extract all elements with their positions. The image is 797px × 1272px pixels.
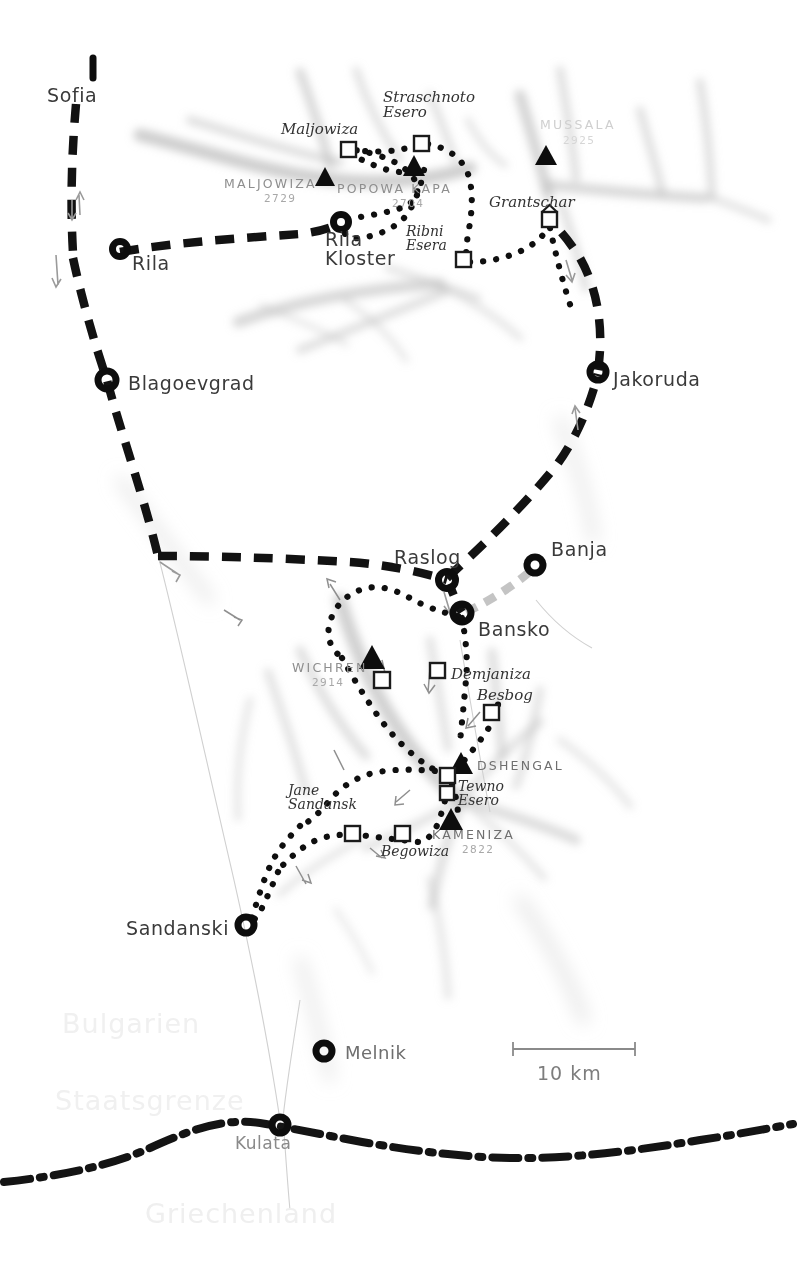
map-canvas: Bulgarien Staatsgrenze Griechenland Sofi…	[0, 0, 797, 1272]
hut-straschnoto	[414, 136, 429, 151]
hut-ribni-esera	[456, 252, 471, 267]
scale-bar	[513, 1042, 635, 1056]
peak-elevation-wichren: 2914	[312, 676, 344, 688]
hut-label-jane-sandanski[interactable]: Jane Sandansk	[288, 783, 357, 811]
country-label-bulgarien: Bulgarien	[62, 1008, 200, 1039]
road-blagoevgrad-south	[73, 258, 158, 556]
town-label-raslog[interactable]: Raslog	[394, 546, 461, 568]
hut-maljowiza	[341, 142, 356, 157]
lake-label-tewno-line2: Esero	[458, 793, 504, 807]
town-label-sandanski[interactable]: Sandanski	[126, 917, 229, 939]
hut-jane-sandanski	[345, 826, 360, 841]
peak-label-mussala: MUSSALA	[540, 117, 616, 132]
hut-begowiza	[395, 826, 410, 841]
hut-tewno-esero	[440, 786, 454, 800]
town-label-rila[interactable]: Rila	[132, 252, 170, 274]
peak-elevation-maljowiza: 2729	[264, 192, 296, 204]
town-label-bansko[interactable]: Bansko	[478, 618, 550, 640]
hut-label-ribni-line1: Ribni	[406, 224, 447, 238]
town-marker-blagoevgrad	[98, 371, 116, 389]
town-label-banja[interactable]: Banja	[551, 538, 608, 560]
country-label-staatsgrenze: Staatsgrenze	[55, 1085, 245, 1116]
town-label-jakoruda[interactable]: Jakoruda	[613, 368, 701, 390]
peak-elevation-mussala: 2925	[563, 134, 595, 146]
peak-label-kameniza: KAMENIZA	[432, 827, 515, 842]
hut-label-jane-line2: Sandansk	[288, 797, 357, 811]
border-line	[4, 1122, 793, 1182]
peak-elevation-popowa-kapa: 2704	[392, 197, 424, 209]
town-label-sofia[interactable]: Sofia	[47, 84, 97, 106]
hut-label-jane-line1: Jane	[288, 783, 357, 797]
town-label-melnik[interactable]: Melnik	[345, 1042, 406, 1063]
hut-wichren	[374, 672, 390, 688]
hut-label-grantschar[interactable]: Grantschar	[489, 193, 575, 211]
town-label-rila-kloster[interactable]: Rila Kloster	[325, 230, 395, 268]
trail-ribni-grantschar	[470, 222, 550, 262]
hut-label-besbog[interactable]: Besbog	[477, 686, 533, 704]
town-marker-sandanski	[238, 917, 254, 933]
peak-label-dshengal: DSHENGAL	[477, 758, 564, 773]
road-jakoruda-grantschar	[549, 220, 600, 370]
lake-label-tewno-esero[interactable]: Tewno Esero	[458, 779, 504, 807]
hut-label-ribni-esera[interactable]: Ribni Esera	[406, 224, 447, 252]
town-label-rila-kloster-line2: Kloster	[325, 249, 395, 268]
peak-label-wichren: WICHREN	[292, 660, 368, 675]
hut-label-maljowiza[interactable]: Maljowiza	[281, 120, 358, 138]
state-border	[4, 1122, 793, 1182]
hut-dshengal	[440, 768, 455, 783]
scale-bar-label: 10 km	[537, 1062, 602, 1084]
peak-elevation-kameniza: 2822	[462, 843, 494, 855]
town-label-kulata[interactable]: Kulata	[235, 1133, 291, 1153]
peak-label-popowa-kapa: POPOWA KAPA	[337, 181, 452, 196]
hut-grantschar	[542, 212, 557, 227]
peak-label-maljowiza: MALJOWIZA	[224, 176, 317, 191]
town-label-blagoevgrad[interactable]: Blagoevgrad	[128, 372, 255, 394]
hut-demjaniza	[430, 663, 445, 678]
lake-label-tewno-line1: Tewno	[458, 779, 504, 793]
hut-label-demjaniza[interactable]: Demjaniza	[451, 665, 531, 683]
town-marker-bansko	[453, 604, 471, 622]
country-label-griechenland: Griechenland	[145, 1198, 337, 1229]
hut-label-straschnoto-line2: Esero	[383, 105, 475, 120]
road-bansko-banja	[466, 568, 534, 612]
peak-triangle-popowa	[403, 155, 425, 176]
hut-label-ribni-line2: Esera	[406, 238, 447, 252]
hut-label-straschnoto-esero[interactable]: Straschnoto Esero	[383, 90, 475, 120]
hut-label-begowiza[interactable]: Begowiza	[381, 843, 449, 859]
road-rila-kloster	[120, 223, 341, 252]
town-marker-jakoruda	[590, 364, 606, 380]
hut-besbog	[484, 705, 499, 720]
road-sofia-rila	[72, 104, 76, 253]
town-marker-banja	[527, 557, 543, 573]
